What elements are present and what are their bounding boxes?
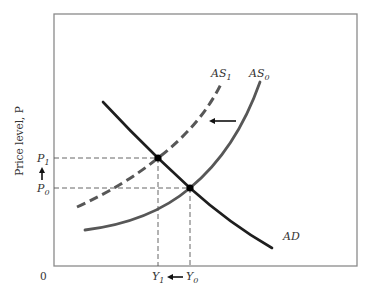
as0-curve: [85, 82, 260, 230]
y0-label: Y0: [186, 270, 198, 285]
y1-label: Y1: [152, 270, 164, 285]
as-ad-chart: Price level, P 0 AS1 AS0 AD P1 P0 Y1 Y0: [0, 0, 370, 295]
y-axis-label: Price level, P: [13, 106, 25, 176]
ad-label: AD: [282, 230, 300, 243]
as0-label: AS0: [248, 67, 270, 82]
ad-curve: [103, 102, 272, 248]
origin-label: 0: [40, 270, 47, 282]
equilibrium-point-0: [186, 184, 193, 191]
p0-label: P0: [36, 182, 50, 197]
p1-label: P1: [36, 152, 50, 167]
as1-label: AS1: [210, 67, 232, 82]
equilibrium-point-1: [154, 154, 161, 161]
reference-lines: [54, 158, 190, 266]
